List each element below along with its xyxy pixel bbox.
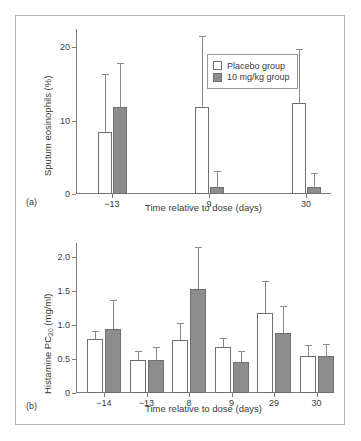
x-tick (306, 194, 307, 198)
error-bar (95, 331, 96, 339)
y-tick-label: 10 (60, 116, 70, 126)
legend-swatch-placebo-icon (213, 61, 222, 70)
bar-treated (318, 356, 334, 393)
legend-swatch-treated-icon (213, 73, 222, 82)
error-bar (156, 347, 157, 360)
bar-placebo (98, 132, 112, 194)
error-bar (314, 173, 315, 188)
panel-b-y-label-post: (mg/ml) (42, 293, 53, 328)
bar-treated (113, 107, 127, 194)
bar-treated (307, 187, 321, 194)
panel-a-plot-area: 01020 −13930 Placebo group 10 mg/kg grou… (76, 29, 331, 194)
legend-item-placebo: Placebo group (213, 61, 290, 71)
error-bar (180, 323, 181, 339)
y-tick (72, 194, 76, 195)
error-bar (299, 49, 300, 103)
error-bar (120, 63, 121, 107)
y-tick-label: 1.0 (57, 320, 70, 330)
legend-label-placebo: Placebo group (227, 61, 285, 71)
error-bar-cap (153, 347, 160, 348)
y-tick (72, 393, 76, 394)
bar-placebo (195, 107, 209, 194)
panel-a-x-axis-label: Time relative to dose (days) (76, 202, 331, 213)
bar-treated (210, 187, 224, 194)
panel-b: Histamine PC20 (mg/ml) 00.51.01.52.0 −14… (16, 213, 346, 426)
legend-item-treated: 10 mg/kg group (213, 72, 290, 82)
error-bar-cap (102, 74, 109, 75)
error-bar-cap (214, 171, 221, 172)
chart-legend: Placebo group 10 mg/kg group (207, 54, 298, 89)
panel-b-x-axis-label: Time relative to dose (days) (76, 403, 331, 414)
y-tick (72, 47, 76, 48)
bar-treated (233, 362, 249, 393)
y-tick (72, 121, 76, 122)
error-bar-cap (238, 351, 245, 352)
error-bar (113, 300, 114, 329)
error-bar-cap (117, 63, 124, 64)
panel-b-plot-area: 00.51.01.52.0 −14−13892930 (76, 243, 331, 393)
error-bar-cap (305, 345, 312, 346)
panel-a-y-axis-label: Sputum eosinophils (%) (42, 76, 53, 176)
bar-treated (275, 333, 291, 393)
error-bar (326, 344, 327, 356)
error-bar-cap (311, 173, 318, 174)
panel-b-y-label-subscript: 20 (47, 328, 54, 336)
error-bar-cap (177, 323, 184, 324)
error-bar (138, 351, 139, 360)
error-bar (202, 36, 203, 106)
x-tick (104, 393, 105, 397)
bar-placebo (172, 340, 188, 393)
error-bar-cap (195, 247, 202, 248)
y-tick (72, 257, 76, 258)
bar-placebo (257, 313, 273, 393)
bar-placebo (87, 339, 103, 393)
panel-b-y-axis-label: Histamine PC20 (mg/ml) (42, 293, 54, 394)
error-bar-cap (135, 351, 142, 352)
y-tick (72, 325, 76, 326)
x-tick (317, 393, 318, 397)
bar-treated (148, 360, 164, 393)
x-tick (189, 393, 190, 397)
panel-b-tag: (b) (26, 401, 37, 411)
error-bar (283, 306, 284, 333)
panel-b-y-axis (76, 243, 77, 393)
legend-label-treated: 10 mg/kg group (227, 72, 290, 82)
panel-a-y-axis (76, 29, 77, 194)
y-tick-label: 20 (60, 42, 70, 52)
x-tick (112, 194, 113, 198)
bar-placebo (292, 103, 306, 194)
bar-placebo (215, 347, 231, 393)
error-bar-cap (110, 300, 117, 301)
error-bar (105, 74, 106, 132)
y-tick-label: 2.0 (57, 252, 70, 262)
x-tick (274, 393, 275, 397)
panel-a: Sputum eosinophils (%) 01020 −13930 Plac… (16, 16, 346, 213)
x-tick (232, 393, 233, 397)
panel-b-y-label-pre: Histamine PC (42, 336, 53, 394)
error-bar (198, 247, 199, 289)
bar-placebo (300, 356, 316, 393)
error-bar (308, 345, 309, 357)
error-bar-cap (220, 338, 227, 339)
bar-treated (190, 289, 206, 393)
error-bar-cap (323, 344, 330, 345)
error-bar-cap (296, 49, 303, 50)
error-bar-cap (92, 331, 99, 332)
y-tick-label: 0.5 (57, 354, 70, 364)
error-bar-cap (262, 281, 269, 282)
panel-a-tag: (a) (26, 197, 37, 207)
x-tick (147, 393, 148, 397)
figure-frame: Sputum eosinophils (%) 01020 −13930 Plac… (15, 15, 345, 425)
y-tick (72, 359, 76, 360)
x-tick (209, 194, 210, 198)
error-bar (223, 338, 224, 347)
error-bar (241, 351, 242, 363)
bar-placebo (130, 360, 146, 393)
y-tick (72, 291, 76, 292)
error-bar (265, 281, 266, 312)
y-tick-label: 0 (65, 189, 70, 199)
error-bar (217, 171, 218, 187)
y-tick-label: 1.5 (57, 286, 70, 296)
error-bar-cap (199, 36, 206, 37)
bar-treated (105, 329, 121, 393)
